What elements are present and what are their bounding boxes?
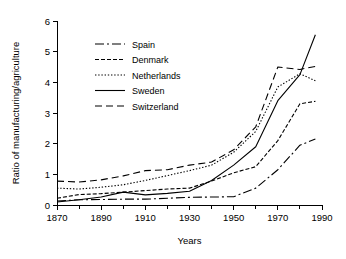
y-axis-title: Ratio of manufacturing/agriculture	[10, 42, 21, 185]
x-tick-label: 1890	[91, 212, 112, 223]
x-tick-label: 1950	[223, 212, 244, 223]
legend-label-sweden: Sweden	[132, 86, 165, 96]
x-tick-label: 1870	[46, 212, 67, 223]
legend-label-netherlands: Netherlands	[132, 71, 181, 81]
legend-label-switzerland: Switzerland	[132, 102, 179, 112]
x-tick-label: 1990	[311, 212, 332, 223]
y-tick-label: 5	[45, 46, 50, 57]
chart-figure: 01234561870189019101930195019701990Years…	[0, 0, 346, 259]
y-tick-label: 4	[45, 77, 50, 88]
y-tick-label: 1	[45, 169, 50, 180]
x-tick-label: 1910	[135, 212, 156, 223]
legend-label-spain: Spain	[132, 40, 155, 50]
y-tick-label: 2	[45, 138, 50, 149]
series-line-denmark	[57, 101, 315, 198]
y-tick-label: 0	[45, 200, 50, 211]
x-axis-title: Years	[178, 235, 202, 246]
x-tick-label: 1970	[267, 212, 288, 223]
legend-label-denmark: Denmark	[132, 55, 169, 65]
y-tick-label: 3	[45, 108, 50, 119]
line-chart: 01234561870189019101930195019701990Years…	[0, 0, 346, 259]
series-line-switzerland	[57, 66, 315, 182]
axis-spines	[57, 21, 322, 205]
y-tick-label: 6	[45, 16, 50, 27]
x-tick-label: 1930	[179, 212, 200, 223]
